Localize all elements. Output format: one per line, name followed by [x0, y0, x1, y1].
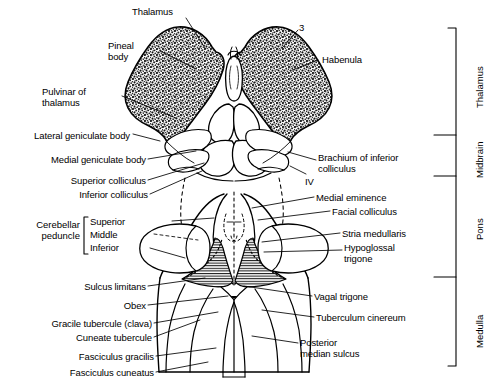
- label-facial-colliculus: Facial colliculus: [332, 206, 426, 217]
- label-superior-colliculus: Superior colliculus: [42, 175, 146, 186]
- label-cerebellar-peduncle: Cerebellar peduncle: [8, 219, 80, 241]
- label-three: 3: [299, 22, 313, 33]
- label-cuneate-tubercule: Cuneate tubercule: [40, 332, 152, 343]
- region-label-medulla: Medulla: [474, 315, 484, 348]
- label-lateral-geniculate-body: Lateral geniculate body: [8, 130, 130, 141]
- label-thalamus: Thalamus: [132, 6, 202, 17]
- label-nerve-four: IV: [305, 176, 323, 187]
- label-fasciculus-gracilis: Fasciculus gracilis: [56, 351, 154, 362]
- label-sulcus-limitans: Sulcus limitans: [58, 281, 146, 292]
- label-posterior-median-sulcus: Posterior median sulcus: [300, 337, 396, 359]
- label-obex: Obex: [96, 300, 146, 311]
- label-medial-geniculate-body: Medial geniculate body: [24, 154, 146, 165]
- label-habenula: Habenula: [322, 54, 382, 65]
- label-middle-peduncle: Middle: [90, 229, 148, 240]
- right-cerebellar-peduncle-stump: [258, 224, 328, 273]
- pineal-body-shape: [226, 47, 243, 101]
- brainstem-diagram: Thalamus Pineal body Pulvinar of thalamu…: [0, 0, 484, 383]
- label-inferior-peduncle: Inferior: [90, 242, 148, 253]
- label-pulvinar-of-thalamus: Pulvinar of thalamus: [42, 86, 120, 108]
- region-label-pons: Pons: [474, 218, 484, 240]
- label-pineal-body: Pineal body: [108, 40, 158, 62]
- cerebellar-peduncle-bracket: [84, 217, 88, 254]
- label-hypoglossal-trigone: Hypoglossal trigone: [344, 242, 422, 264]
- label-gracile-tubercule: Gracile tubercule (clava): [16, 318, 152, 329]
- label-brachium-inferior-colliculus: Brachium of inferior colliculus: [318, 152, 434, 174]
- label-stria-medullaris: Stria medullaris: [342, 228, 434, 239]
- label-inferior-colliculus: Inferior colliculus: [50, 189, 148, 200]
- label-tuberculum-cinereum: Tuberculum cinereum: [316, 312, 440, 323]
- region-label-thalamus: Thalamus: [474, 66, 484, 108]
- label-medial-eminence: Medial eminence: [316, 192, 416, 203]
- region-label-midbrain: Midbrain: [474, 142, 484, 178]
- label-vagal-trigone: Vagal trigone: [314, 291, 398, 302]
- label-superior-peduncle: Superior: [90, 216, 148, 227]
- label-fasciculus-cuneatus: Fasciculus cuneatus: [48, 367, 154, 378]
